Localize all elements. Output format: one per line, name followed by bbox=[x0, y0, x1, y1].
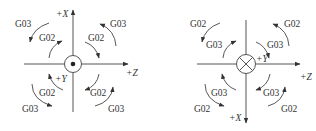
left-tl-inner-label: G02 bbox=[39, 33, 56, 43]
left-bl-outer-label: G03 bbox=[22, 104, 39, 114]
right-br-inner-label: G03 bbox=[263, 88, 280, 98]
left-tr-inner-label: G02 bbox=[88, 33, 105, 43]
right-z-axis-label: +Z bbox=[300, 72, 312, 82]
left-x-axis-label: +X bbox=[56, 9, 69, 19]
left-y-axis-label: +Y bbox=[55, 74, 68, 84]
left-diagram: +X +Z +Y G03 G02 G03 G02 G03 G02 G03 G02 bbox=[15, 9, 138, 114]
left-bl-inner-label: G02 bbox=[39, 88, 56, 98]
right-x-axis-label: +X bbox=[229, 113, 242, 123]
right-br-outer-label: G02 bbox=[281, 104, 298, 114]
right-y-axis-label: +Y bbox=[256, 54, 269, 64]
left-tl-inner-arc bbox=[49, 41, 62, 58]
left-z-axis-label: +Z bbox=[126, 68, 138, 78]
center-dot-icon bbox=[71, 62, 76, 67]
left-br-outer-label: G03 bbox=[108, 104, 125, 114]
right-bl-outer-label: G02 bbox=[194, 104, 211, 114]
right-bl-inner-label: G03 bbox=[211, 88, 228, 98]
left-tr-outer-label: G03 bbox=[110, 19, 127, 29]
right-tr-inner-label: G03 bbox=[267, 40, 284, 50]
left-tl-outer-label: G03 bbox=[15, 19, 32, 29]
right-tr-outer-label: G02 bbox=[284, 19, 301, 29]
left-tr-inner-arc bbox=[85, 42, 99, 58]
right-tl-inner-arc bbox=[223, 41, 236, 58]
right-tl-outer-label: G02 bbox=[190, 19, 207, 29]
right-tl-inner-label: G03 bbox=[206, 40, 223, 50]
arc-direction-diagram: +X +Z +Y G03 G02 G03 G02 G03 G02 G03 G02… bbox=[0, 0, 316, 131]
right-diagram: +X +Z +Y G02 G03 G02 G03 G02 G03 G02 G03 bbox=[190, 19, 312, 123]
left-br-inner-label: G02 bbox=[90, 88, 107, 98]
